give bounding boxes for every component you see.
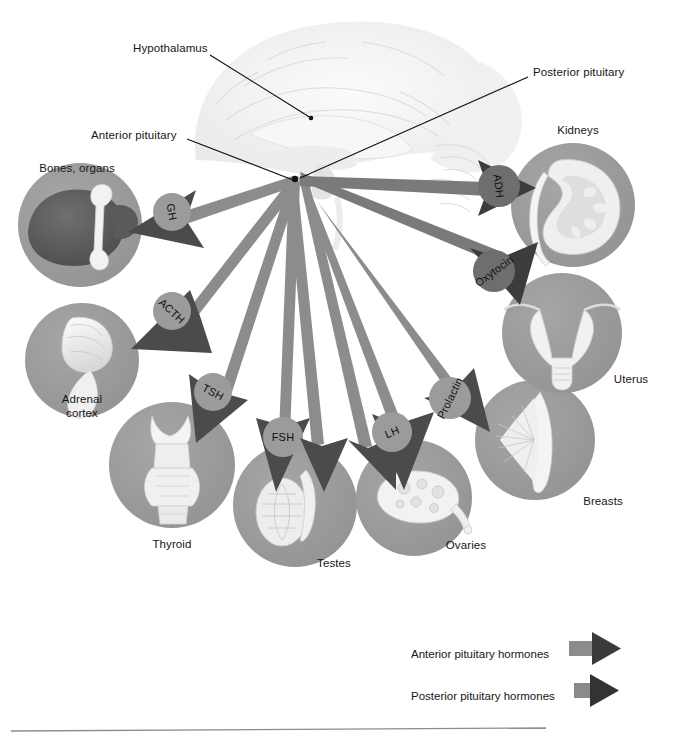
organ-label-kidneys: Kidneys [536, 123, 620, 137]
organ-label-bones-organs: Bones, organs [12, 161, 142, 175]
bottom-rule [11, 728, 546, 731]
organ-label-breasts: Breasts [562, 494, 644, 508]
figure-page: GH ACTH TSH FSH [0, 0, 676, 733]
legend-arrow-posterior [574, 674, 619, 707]
organ-label-ovaries: Ovaries [426, 538, 506, 552]
hormone-label-fsh: FSH [272, 431, 295, 443]
leader-dot-hypothalamus [309, 116, 314, 121]
legend-label-posterior: Posterior pituitary hormones [411, 690, 555, 702]
callout-label-hypothalamus: Hypothalamus [133, 41, 208, 55]
organ-circle-testes [233, 443, 357, 567]
callout-label-anterior-pituitary: Anterior pituitary [91, 128, 177, 142]
organ-label-testes: Testes [294, 556, 374, 570]
legend-arrow-anterior [569, 632, 621, 665]
pituitary-hormone-diagram: GH ACTH TSH FSH [0, 0, 676, 733]
pituitary-hub [292, 176, 298, 182]
organ-circle-breasts [475, 380, 595, 500]
brain-illustration [195, 21, 522, 250]
organ-label-adrenal-cortex: Adrenal cortex [32, 392, 132, 420]
organ-circle-bones-organs [18, 163, 142, 287]
organ-label-thyroid: Thyroid [127, 537, 217, 551]
legend-label-anterior: Anterior pituitary hormones [411, 648, 549, 660]
callout-label-posterior-pituitary: Posterior pituitary [533, 65, 624, 79]
organ-label-uterus: Uterus [592, 372, 670, 386]
